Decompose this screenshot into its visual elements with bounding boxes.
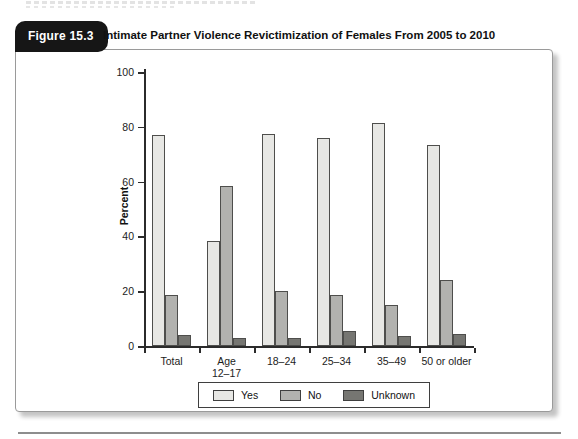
y-tick [138, 182, 144, 184]
y-tick-label: 0 [100, 340, 134, 352]
x-tick [474, 348, 476, 353]
legend-label-yes: Yes [241, 389, 258, 401]
y-tick-label: 20 [100, 285, 134, 297]
figure-title: Intimate Partner Violence Revictimizatio… [103, 29, 558, 41]
legend-swatch-unknown [343, 390, 364, 401]
y-tick-label: 60 [100, 176, 134, 188]
figure-number-label: Figure 15.3 [28, 29, 94, 43]
bar-unknown-age-12-17 [233, 338, 246, 346]
figure-panel: Percent 020406080100TotalAge12–1718–2425… [15, 49, 553, 412]
bar-unknown-18-24 [288, 338, 301, 346]
x-tick [254, 348, 256, 353]
cropped-page-header-text [26, 1, 256, 4]
x-tick [199, 348, 201, 353]
y-tick-label: 80 [100, 121, 134, 133]
bar-yes-25-34 [317, 138, 330, 346]
bar-chart: Percent 020406080100TotalAge12–1718–2425… [16, 50, 552, 411]
figure-number-tab: Figure 15.3 [15, 21, 108, 52]
x-category-label-50-or-older: 50 or older [404, 355, 489, 367]
bar-unknown-35-49 [398, 336, 411, 346]
bar-no-35-49 [385, 305, 398, 346]
legend-item-no: No [280, 389, 321, 401]
legend-item-unknown: Unknown [343, 389, 415, 401]
bar-unknown-total [178, 335, 191, 346]
bar-no-total [165, 295, 178, 346]
bar-yes-age-12-17 [207, 241, 220, 346]
y-tick [138, 236, 144, 238]
bar-unknown-50-or-older [453, 334, 466, 346]
y-axis [144, 69, 146, 346]
chart-legend: YesNoUnknown [198, 382, 430, 408]
legend-item-yes: Yes [213, 389, 258, 401]
legend-label-unknown: Unknown [371, 389, 415, 401]
y-tick [138, 127, 144, 129]
y-tick-label: 40 [100, 230, 134, 242]
bar-no-age-12-17 [220, 186, 233, 346]
y-tick [138, 72, 144, 74]
legend-label-no: No [308, 389, 321, 401]
legend-swatch-yes [213, 390, 234, 401]
cropped-page-header-text-line2 [26, 6, 176, 8]
bar-yes-35-49 [372, 123, 385, 346]
page-bottom-rule [18, 432, 561, 434]
x-tick [364, 348, 366, 353]
x-tick [144, 348, 146, 353]
y-tick [138, 291, 144, 293]
x-tick [419, 348, 421, 353]
bar-no-18-24 [275, 291, 288, 346]
x-tick [309, 348, 311, 353]
legend-swatch-no [280, 390, 301, 401]
bar-yes-total [152, 135, 165, 346]
bar-yes-50-or-older [427, 145, 440, 346]
bar-no-25-34 [330, 295, 343, 346]
bar-yes-18-24 [262, 134, 275, 346]
y-tick-label: 100 [100, 66, 134, 78]
bar-no-50-or-older [440, 280, 453, 346]
bar-unknown-25-34 [343, 331, 356, 346]
